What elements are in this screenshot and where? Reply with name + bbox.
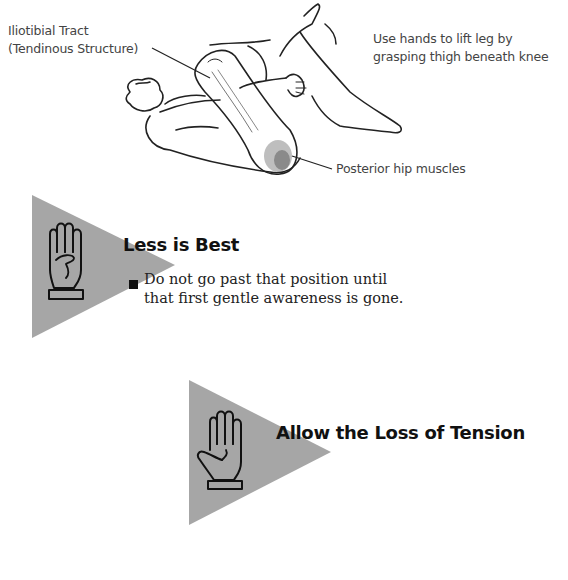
bullet-marker [129, 280, 138, 289]
instruction-label-line2: grasping thigh beneath knee [373, 48, 548, 66]
tip-bullet-text: Do not go past that position until that … [144, 270, 403, 308]
open-hand-icon [196, 410, 250, 492]
tip-bullet-line1: Do not go past that position until [144, 270, 403, 289]
iliotibial-label-line1: Iliotibial Tract [8, 22, 138, 40]
instruction-label-line1: Use hands to lift leg by [373, 30, 548, 48]
iliotibial-pointer-line [152, 48, 210, 78]
instruction-label: Use hands to lift leg by grasping thigh … [373, 30, 548, 66]
tip-heading-allow-loss-of-tension: Allow the Loss of Tension [276, 422, 525, 443]
iliotibial-label: Iliotibial Tract (Tendinous Structure) [8, 22, 138, 58]
posterior-hip-label: Posterior hip muscles [336, 160, 465, 178]
four-fingers-hand-icon [44, 222, 90, 304]
iliotibial-label-line2: (Tendinous Structure) [8, 40, 138, 58]
tip-bullet-line2: that first gentle awareness is gone. [144, 289, 403, 308]
tip-heading-less-is-best: Less is Best [123, 234, 239, 255]
